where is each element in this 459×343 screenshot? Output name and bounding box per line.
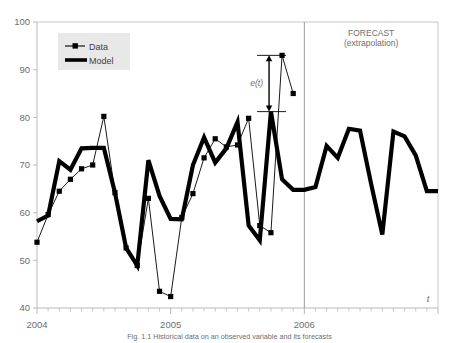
series-model-line bbox=[37, 112, 438, 266]
y-tick-label: 40 bbox=[19, 302, 30, 313]
error-label: e(t) bbox=[250, 78, 263, 88]
series-data-marker bbox=[291, 91, 296, 96]
series-data-marker bbox=[268, 230, 273, 235]
error-arrow-head-down bbox=[266, 106, 272, 112]
y-tick-label: 100 bbox=[14, 16, 30, 27]
y-tick-label: 70 bbox=[19, 159, 30, 170]
y-tick-label: 50 bbox=[19, 255, 30, 266]
series-data-marker bbox=[224, 144, 229, 149]
y-tick-label: 90 bbox=[19, 64, 30, 75]
legend-key-data-marker bbox=[73, 43, 78, 48]
series-data-marker bbox=[90, 162, 95, 167]
chart-canvas: 100908070605040200420052006tFORECAST(ext… bbox=[0, 0, 459, 343]
series-data-marker bbox=[46, 212, 51, 217]
series-data-marker bbox=[101, 114, 106, 119]
series-data-marker bbox=[112, 190, 117, 195]
legend-label-data: Data bbox=[89, 42, 108, 52]
series-data-line bbox=[37, 55, 293, 296]
series-data-marker bbox=[146, 196, 151, 201]
error-arrow-head-up bbox=[266, 55, 272, 61]
series-data-marker bbox=[246, 116, 251, 121]
series-data-marker bbox=[135, 263, 140, 268]
series-data-marker bbox=[179, 215, 184, 220]
x-axis-title: t bbox=[427, 293, 430, 304]
series-data-marker bbox=[190, 191, 195, 196]
series-data-marker bbox=[68, 177, 73, 182]
forecast-chart: 100908070605040200420052006tFORECAST(ext… bbox=[0, 0, 459, 343]
series-data-marker bbox=[79, 166, 84, 171]
y-tick-label: 80 bbox=[19, 112, 30, 123]
series-data-marker bbox=[124, 245, 129, 250]
x-tick-label: 2006 bbox=[294, 319, 315, 330]
y-tick-label: 60 bbox=[19, 207, 30, 218]
figure-caption: Fig. 1.1 Historical data on an observed … bbox=[0, 330, 459, 343]
series-data-marker bbox=[168, 294, 173, 299]
series-data-marker bbox=[34, 240, 39, 245]
series-data-marker bbox=[213, 136, 218, 141]
series-data-marker bbox=[201, 155, 206, 160]
series-data-marker bbox=[235, 142, 240, 147]
series-data-marker bbox=[157, 289, 162, 294]
series-data-marker bbox=[57, 189, 62, 194]
forecast-label-line1: FORECAST bbox=[348, 28, 394, 38]
legend-label-model: Model bbox=[89, 56, 114, 66]
x-tick-label: 2004 bbox=[26, 319, 47, 330]
forecast-label-line2: (extrapolation) bbox=[344, 38, 399, 48]
series-data-marker bbox=[257, 223, 262, 228]
x-tick-label: 2005 bbox=[160, 319, 181, 330]
